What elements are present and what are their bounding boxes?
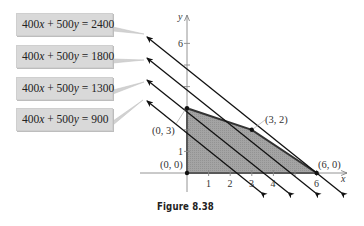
y-tick-6: 6 — [178, 38, 183, 49]
point-label-0-3: (0, 3) — [152, 125, 175, 137]
label-text: = 1800 — [79, 50, 114, 62]
x-tick-4: 4 — [271, 178, 276, 189]
y-axis-label: y — [177, 11, 183, 22]
x-axis-label: x — [340, 173, 346, 184]
label-line-1300: 400x + 500y = 1300 — [16, 77, 113, 100]
label-line-2400: 400x + 500y = 2400 — [16, 13, 113, 36]
y-tick-1: 1 — [178, 146, 183, 157]
x-tick-3: 3 — [249, 178, 254, 189]
label-text: = 2400 — [79, 18, 114, 30]
label-line-1800: 400x + 500y = 1800 — [16, 45, 113, 68]
label-text: = 900 — [79, 113, 109, 125]
point-label-0-0: (0, 0) — [160, 159, 183, 171]
label-text: 400 — [22, 18, 39, 30]
figure-caption: Figure 8.38 — [157, 200, 214, 213]
label-text: + 500 — [44, 82, 74, 94]
x-tick-6: 6 — [314, 178, 319, 189]
x-tick-2: 2 — [228, 178, 233, 189]
point-label-6-0: (6, 0) — [318, 159, 341, 171]
label-text: = 1300 — [79, 82, 114, 94]
label-text: + 500 — [44, 113, 74, 125]
label-text: 400 — [22, 82, 39, 94]
label-text: + 500 — [44, 18, 74, 30]
label-text: 400 — [22, 50, 39, 62]
label-text: + 500 — [44, 50, 74, 62]
callout-tails — [113, 27, 144, 125]
label-line-900: 400x + 500y = 900 — [16, 108, 113, 131]
label-text: 400 — [22, 113, 39, 125]
line-1300 — [147, 80, 288, 192]
point-label-3-2: (3, 2) — [265, 114, 288, 126]
x-tick-1: 1 — [206, 178, 211, 189]
